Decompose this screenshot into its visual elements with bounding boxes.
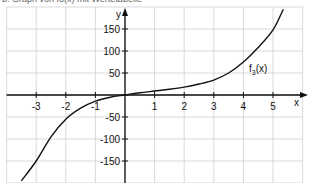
x-tick-label: 3 — [211, 101, 217, 112]
x-tick-label: 4 — [241, 101, 247, 112]
y-tick-label: -50 — [106, 112, 121, 123]
axes — [7, 8, 308, 183]
x-tick-label: 5 — [270, 101, 276, 112]
y-axis-label: y — [116, 9, 121, 20]
y-tick-label: -150 — [100, 156, 120, 167]
chart: -3-2-11234515010050-50-100-150 f3(x) x y — [0, 0, 310, 183]
y-tick-label: -100 — [100, 134, 120, 145]
x-tick-label: -2 — [61, 101, 70, 112]
y-tick-label: 50 — [109, 68, 121, 79]
y-tick-label: 150 — [103, 24, 120, 35]
x-tick-label: 2 — [181, 101, 187, 112]
x-tick-label: 1 — [152, 101, 158, 112]
x-tick-label: -3 — [32, 101, 41, 112]
curve-label: f3(x) — [249, 63, 267, 76]
x-axis-label: x — [294, 97, 299, 108]
y-tick-label: 100 — [103, 46, 120, 57]
